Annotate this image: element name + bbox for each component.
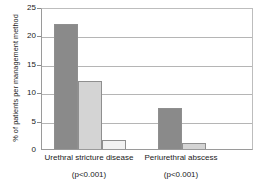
bar-g1-s0 [158, 108, 182, 149]
bar-g0-s2 [102, 140, 126, 149]
x-axis-group-1: Periurethral abscess (p<0.001) [121, 152, 241, 180]
y-tick-label-15: 15 [16, 61, 36, 69]
bar-g1-s1 [182, 143, 206, 149]
x-axis-group-1-pvalue: (p<0.001) [121, 169, 241, 180]
bars-layer [42, 9, 252, 149]
y-tick-label-10: 10 [16, 89, 36, 97]
y-tick-label-25: 25 [16, 4, 36, 12]
bar-g0-s0 [54, 24, 78, 149]
bar-chart: % of patients per management method 25 2… [0, 0, 260, 194]
y-tick-label-20: 20 [16, 32, 36, 40]
bar-g0-s1 [78, 81, 102, 149]
x-axis-group-1-name: Periurethral abscess [121, 152, 241, 163]
plot-area [41, 8, 253, 150]
y-tick-label-5: 5 [16, 118, 36, 126]
x-axis-labels: Urethral stricture disease (p<0.001) Per… [41, 152, 253, 192]
y-axis-tick-labels: 25 20 15 10 5 0 [16, 8, 36, 150]
